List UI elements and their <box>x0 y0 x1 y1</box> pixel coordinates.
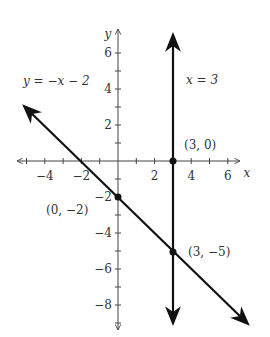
point-label: (3, −5) <box>188 245 230 259</box>
y-tick-label: −6 <box>94 262 112 276</box>
point-0-neg2 <box>115 194 122 201</box>
x-axis-label: x <box>244 166 251 180</box>
x-tick-label: 4 <box>187 169 195 183</box>
y-tick-label: 4 <box>104 82 112 96</box>
equation-label: x = 3 <box>186 73 218 87</box>
x-tick-label: −4 <box>36 169 54 183</box>
y-axis-label: y <box>104 27 112 41</box>
y-tick-label: −4 <box>94 226 112 240</box>
y-tick-label: 6 <box>104 46 112 60</box>
point-3-0 <box>170 158 177 165</box>
point-label: (3, 0) <box>184 138 216 152</box>
point-label: (0, −2) <box>46 203 88 217</box>
x-tick-label: −2 <box>73 169 91 183</box>
x-tick-label: 6 <box>224 169 232 183</box>
point-3-neg5 <box>170 249 177 256</box>
equation-label: y = −x − 2 <box>22 74 90 88</box>
graph: −4 −2 2 4 6 x 6 4 2 −2 −4 −6 −8 y (3, 0)… <box>0 0 270 337</box>
x-tick-label: 2 <box>151 169 159 183</box>
y-tick-label: −2 <box>94 190 112 204</box>
y-tick-label: 2 <box>104 118 112 132</box>
y-tick-label: −8 <box>94 298 112 312</box>
